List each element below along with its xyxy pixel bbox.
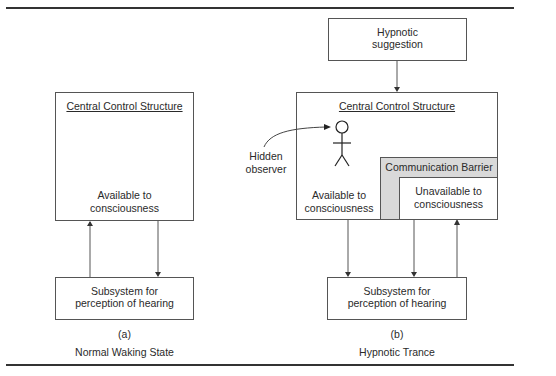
subsystem-label-b-2: perception of hearing [327, 297, 467, 310]
caption-letter-b: (b) [327, 328, 467, 341]
stick-figure-icon [333, 121, 351, 166]
caption-b: Hypnotic Trance [327, 346, 467, 359]
hidden-observer-figure [0, 0, 556, 376]
pointer-arrow-icon [264, 127, 326, 147]
